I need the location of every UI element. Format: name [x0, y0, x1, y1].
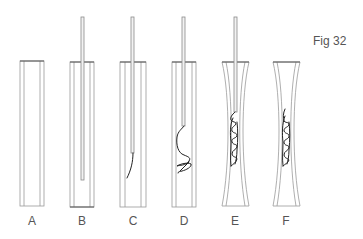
panel-e-rod: [234, 17, 237, 112]
panel-d-rod: [182, 17, 185, 126]
panel-d-tube: [172, 17, 196, 207]
panel-c-wire: [127, 153, 133, 178]
panel-label-e: E: [225, 214, 245, 228]
panel-a-tube: [20, 61, 44, 206]
diagram-figure: [0, 0, 363, 239]
panel-label-f: F: [276, 214, 296, 228]
panel-label-b: B: [72, 214, 92, 228]
panel-f-tube: [273, 62, 300, 206]
panel-c-rod: [131, 17, 134, 153]
panel-d-wire: [177, 126, 191, 173]
panel-f-wire: [282, 109, 289, 166]
panel-c-tube: [120, 17, 146, 207]
figure-title: Fig 32: [313, 34, 346, 48]
panel-e-tube: [222, 17, 249, 206]
panel-label-a: A: [22, 214, 42, 228]
panel-label-c: C: [123, 214, 143, 228]
panel-label-d: D: [174, 214, 194, 228]
panel-b-rod: [81, 17, 84, 180]
panel-b-tube: [70, 17, 94, 207]
